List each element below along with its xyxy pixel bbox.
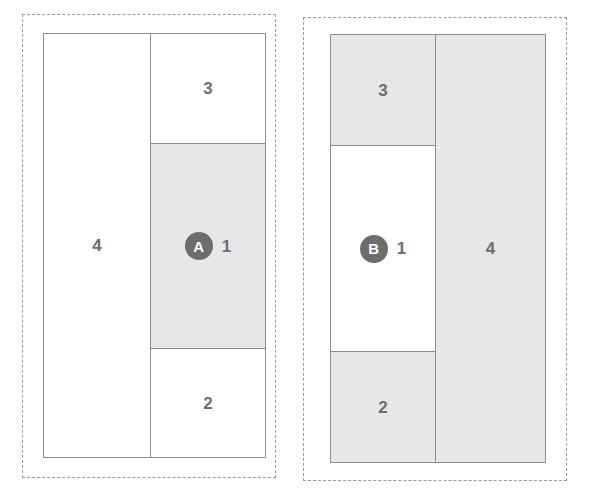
panel-b-region-4-label: 4 [486, 240, 495, 257]
panel-a-region-2[interactable]: 2 [151, 349, 265, 457]
panel-b-region-2-label: 2 [378, 399, 387, 416]
panel-a-region-3-label: 3 [203, 80, 212, 97]
panel-a-region-1-label: 1 [222, 238, 231, 255]
panel-a-badge: A [185, 232, 213, 260]
panel-a-right-column: 3 A 1 2 [151, 34, 265, 457]
panel-a-layout: 4 3 A 1 2 [43, 33, 266, 458]
panel-b-region-1-content: B 1 [360, 235, 406, 263]
panel-a-region-4-label: 4 [92, 237, 101, 254]
panel-b-layout: 3 B 1 2 4 [330, 34, 546, 463]
panel-b-region-1-label: 1 [397, 240, 406, 257]
diagram-canvas: · · · 4 3 A 1 2 [0, 0, 589, 494]
panel-b-left-column: 3 B 1 2 [331, 35, 436, 462]
panel-b-region-3-label: 3 [378, 82, 387, 99]
top-text-fragment: · · · [292, 0, 314, 4]
panel-a-region-1[interactable]: A 1 [151, 144, 265, 349]
panel-a-region-1-content: A 1 [185, 232, 231, 260]
panel-b-region-4[interactable]: 4 [436, 35, 545, 462]
panel-a-region-2-label: 2 [203, 395, 212, 412]
panel-a-left-column: 4 [44, 34, 151, 457]
panel-a-region-4[interactable]: 4 [44, 34, 150, 457]
panel-b-region-3[interactable]: 3 [331, 35, 435, 146]
panel-b-badge: B [360, 235, 388, 263]
panel-a-region-3[interactable]: 3 [151, 34, 265, 144]
panel-b-region-2[interactable]: 2 [331, 352, 435, 462]
panel-b-right-column: 4 [436, 35, 545, 462]
panel-b-region-1[interactable]: B 1 [331, 146, 435, 352]
